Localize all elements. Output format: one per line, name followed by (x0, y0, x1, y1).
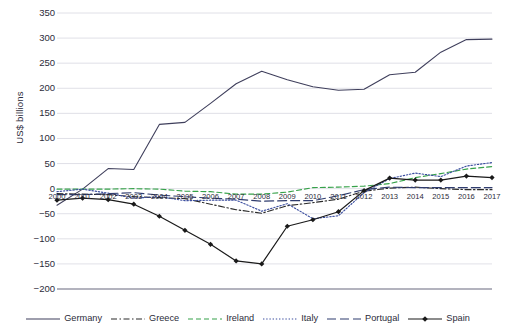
legend-label: Greece (149, 314, 179, 323)
legend-item-italy[interactable]: Italy (263, 314, 318, 324)
series-line-italy (57, 163, 492, 219)
legend-item-ireland[interactable]: Ireland (188, 314, 254, 324)
x-tick-label: 2015 (428, 193, 454, 201)
x-tick-label: 2001 (70, 193, 96, 201)
legend-swatch-germany (26, 314, 60, 324)
x-tick-label: 2007 (223, 193, 249, 201)
x-tick-label: 2002 (95, 193, 121, 201)
series-marker-spain (131, 202, 136, 207)
x-tick-label: 2003 (121, 193, 147, 201)
series-marker-spain (413, 178, 418, 183)
series-marker-spain (464, 173, 469, 178)
legend-swatch-portugal (327, 314, 361, 324)
legend-swatch-spain (408, 314, 442, 324)
series-marker-spain (157, 214, 162, 219)
series-marker-spain (182, 228, 187, 233)
x-tick-label: 2004 (146, 193, 172, 201)
legend-swatch-ireland (188, 314, 222, 324)
legend-swatch-greece (111, 314, 145, 324)
x-tick-label: 2009 (274, 193, 300, 201)
legend-label: Ireland (226, 314, 254, 323)
legend-item-greece[interactable]: Greece (111, 314, 179, 324)
legend-item-portugal[interactable]: Portugal (327, 314, 399, 324)
legend-label: Spain (446, 314, 470, 323)
x-tick-label: 2017 (479, 193, 505, 201)
x-tick-label: 2011 (325, 193, 351, 201)
x-tick-label: 2012 (351, 193, 377, 201)
legend-item-germany[interactable]: Germany (26, 314, 102, 324)
legend-swatch-italy (263, 314, 297, 324)
x-tick-label: 2013 (377, 193, 403, 201)
chart-legend: GermanyGreeceIrelandItalyPortugalSpain (0, 306, 496, 332)
x-tick-label: 2000 (44, 193, 70, 201)
x-tick-label: 2005 (172, 193, 198, 201)
x-tick-label: 2010 (300, 193, 326, 201)
x-tick-label: 2016 (453, 193, 479, 201)
legend-label: Italy (301, 314, 318, 323)
x-tick-label: 2008 (249, 193, 275, 201)
x-tick-label: 2006 (198, 193, 224, 201)
series-marker-spain (489, 175, 494, 180)
series-marker-spain (438, 178, 443, 183)
x-tick-label: 2014 (402, 193, 428, 201)
legend-item-spain[interactable]: Spain (408, 314, 470, 324)
legend-label: Germany (64, 314, 102, 323)
legend-label: Portugal (365, 314, 399, 323)
